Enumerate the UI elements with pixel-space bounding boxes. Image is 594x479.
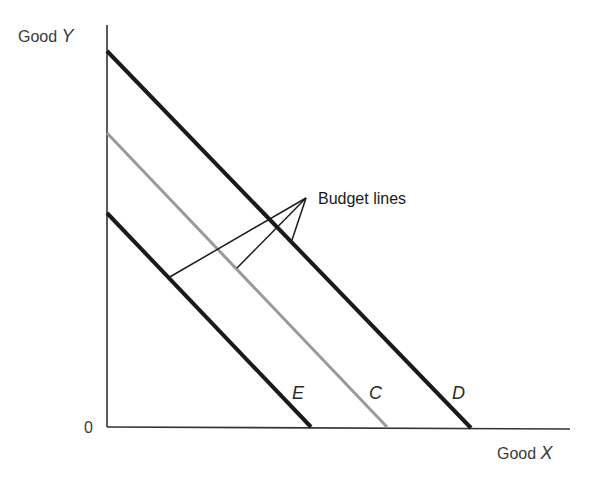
label-c: C: [369, 383, 383, 403]
origin-label: 0: [84, 419, 93, 436]
budget-line-c: [107, 133, 387, 427]
label-e: E: [292, 383, 305, 403]
budget-line-e: [107, 213, 311, 427]
budget-line-d: [107, 51, 471, 428]
label-d: D: [452, 383, 465, 403]
y-axis-label: Good Y: [18, 26, 76, 46]
budget-lines-diagram: Good Y Good X 0 E C D Budget lines: [0, 0, 594, 479]
budget-lines-annotation: Budget lines: [318, 190, 406, 207]
pointer-to-c: [237, 198, 306, 268]
x-axis: [107, 427, 570, 429]
x-axis-label: Good X: [497, 443, 554, 463]
